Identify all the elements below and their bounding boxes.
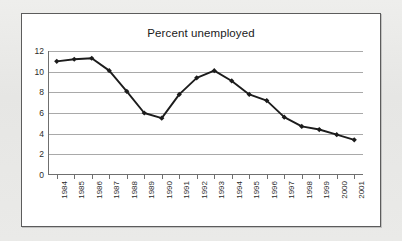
x-axis-tick-label: 1991 [182, 181, 191, 199]
chart-frame: Percent unemployed 024681012 19841985198… [21, 13, 381, 227]
chart-title: Percent unemployed [22, 27, 380, 39]
line-series [48, 51, 363, 175]
x-axis-tick-label: 1984 [60, 181, 69, 199]
y-axis-tick-label: 8 [39, 87, 44, 97]
x-axis-tick-mark [74, 175, 75, 179]
x-axis-tick-mark [214, 175, 215, 179]
x-axis-tick-mark [302, 175, 303, 179]
x-axis-tick-label: 1992 [200, 181, 209, 199]
x-axis-tick-mark [337, 175, 338, 179]
x-axis-tick-mark [162, 175, 163, 179]
x-axis-tick-mark [319, 175, 320, 179]
x-axis-tick-label: 1996 [270, 181, 279, 199]
x-axis-tick-mark [57, 175, 58, 179]
plot-area: 024681012 198419851986198719881989199019… [48, 51, 363, 175]
x-axis-tick-mark [92, 175, 93, 179]
x-axis-tick-label: 1990 [165, 181, 174, 199]
y-axis-tick-label: 2 [39, 149, 44, 159]
x-axis-tick-mark [127, 175, 128, 179]
x-axis-tick-mark [197, 175, 198, 179]
x-axis-tick-label: 2000 [340, 181, 349, 199]
x-axis-tick-label: 1989 [147, 181, 156, 199]
series-line [57, 58, 355, 140]
data-point-marker [54, 59, 59, 64]
x-axis-tick-label: 1998 [305, 181, 314, 199]
data-point-marker [317, 127, 322, 132]
x-axis-tick-mark [249, 175, 250, 179]
x-axis-tick-mark [232, 175, 233, 179]
x-axis-tick-mark [109, 175, 110, 179]
x-axis-tick-label: 1985 [77, 181, 86, 199]
x-axis-tick-label: 1995 [252, 181, 261, 199]
y-axis-tick-label: 0 [39, 170, 44, 180]
x-axis-tick-mark [267, 175, 268, 179]
data-point-marker [72, 57, 77, 62]
x-axis-tick-label: 2001 [357, 181, 366, 199]
x-axis-tick-label: 1986 [95, 181, 104, 199]
x-axis-tick-mark [354, 175, 355, 179]
x-axis-tick-label: 1993 [217, 181, 226, 199]
x-axis-tick-label: 1999 [322, 181, 331, 199]
x-axis-tick-mark [144, 175, 145, 179]
data-point-marker [352, 137, 357, 142]
data-point-marker [334, 132, 339, 137]
y-axis-tick-label: 4 [39, 129, 44, 139]
x-axis-tick-mark [179, 175, 180, 179]
y-axis-tick-label: 12 [35, 46, 44, 56]
x-axis-tick-label: 1997 [287, 181, 296, 199]
x-axis-tick-label: 1987 [112, 181, 121, 199]
x-axis-tick-mark [284, 175, 285, 179]
y-axis-tick-label: 6 [39, 108, 44, 118]
x-axis-tick-label: 1994 [235, 181, 244, 199]
x-axis-tick-label: 1988 [130, 181, 139, 199]
y-axis-tick-label: 10 [35, 67, 44, 77]
